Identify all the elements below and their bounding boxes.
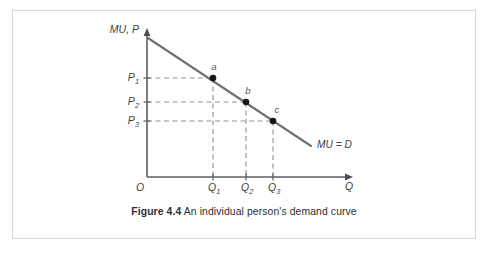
y-tick-label-p2: P2: [128, 95, 139, 110]
x-axis-label: Q: [345, 180, 353, 192]
curve-label-mu-equals-d: MU = D: [317, 139, 352, 150]
point-label-b: b: [245, 85, 251, 96]
y-tick-label-p2-base: P: [128, 95, 135, 107]
x-tick-label-q2-base: Q: [241, 181, 249, 193]
y-tick-label-p3-sub: 3: [135, 120, 140, 129]
figure-caption-number: Figure 4.4: [131, 206, 181, 217]
y-axis-label: MU, P: [110, 23, 139, 35]
x-tick-label-q1: Q1: [208, 181, 220, 196]
figure-container: a b c MU, P Q O P1 P2 P3 Q1 Q2 Q3 MU = D…: [0, 0, 504, 253]
origin-label: O: [136, 181, 144, 193]
data-point-b: [243, 99, 250, 106]
x-tick-label-q3-base: Q: [268, 181, 276, 193]
x-tick-label-q3: Q3: [268, 181, 281, 196]
x-tick-label-q1-sub: 1: [216, 187, 220, 196]
x-tick-label-q3-sub: 3: [276, 187, 281, 196]
y-tick-label-p1-base: P: [128, 71, 135, 83]
y-tick-label-p2-sub: 2: [134, 101, 139, 110]
y-tick-label-p3: P3: [128, 114, 140, 129]
data-point-a: [210, 75, 217, 82]
point-label-c: c: [275, 104, 280, 115]
demand-curve-line: [148, 38, 311, 146]
y-tick-label-p3-base: P: [128, 114, 135, 126]
x-tick-label-q2: Q2: [241, 181, 253, 196]
point-label-a: a: [211, 61, 216, 72]
x-tick-label-q1-base: Q: [208, 181, 216, 193]
data-point-c: [270, 118, 277, 125]
y-tick-label-p1: P1: [128, 71, 139, 86]
y-tick-label-p1-sub: 1: [135, 77, 139, 86]
y-axis-arrow-icon: [144, 28, 151, 36]
figure-caption: Figure 4.4 An individual person's demand…: [12, 206, 476, 217]
x-tick-label-q2-sub: 2: [248, 187, 253, 196]
figure-caption-title: An individual person's demand curve: [181, 206, 356, 217]
